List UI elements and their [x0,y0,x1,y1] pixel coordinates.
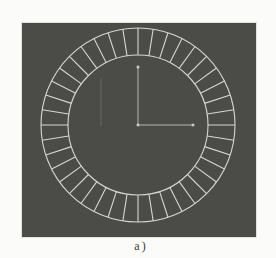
axis-corner-grip [137,124,140,127]
axis-right-grip [192,124,195,127]
axis-top-grip [137,66,140,69]
figure-panel: a) [0,0,276,258]
figure-caption: a) [0,239,276,254]
cad-viewport [22,23,256,237]
segmented-ring-svg [22,23,256,237]
axis-lines [138,67,193,125]
